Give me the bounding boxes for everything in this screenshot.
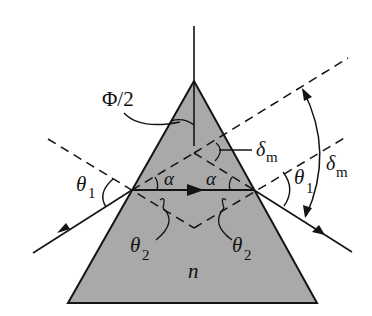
alpha-left-label: α	[164, 168, 175, 189]
theta2-left-subscript: 2	[142, 247, 150, 263]
prism-diagram: Φ/2 δ m δ m θ 1 θ 1 α α θ 2 θ 2 n	[0, 0, 372, 316]
delta-outer-arc	[303, 90, 320, 216]
theta1-right-arc	[283, 172, 290, 206]
theta1-left-label: θ	[76, 172, 86, 196]
theta2-right-label: θ	[232, 233, 242, 257]
theta1-right-subscript: 1	[306, 180, 314, 196]
theta2-right-subscript: 2	[244, 247, 252, 263]
refractive-index-label: n	[188, 259, 199, 283]
delta-outer-arrow-bottom-icon	[303, 205, 312, 218]
theta1-left-subscript: 1	[88, 185, 96, 201]
delta-outer-arrow-top-icon	[302, 88, 312, 101]
theta1-right-label: θ	[294, 165, 304, 189]
delta-inner-label: δ	[256, 138, 266, 160]
alpha-right-label: α	[206, 168, 217, 189]
prism-diagram-svg: Φ/2 δ m δ m θ 1 θ 1 α α θ 2 θ 2 n	[0, 0, 372, 316]
theta2-left-label: θ	[130, 233, 140, 257]
emergent-ray-arrow-icon	[312, 225, 325, 235]
delta-inner-subscript: m	[266, 149, 278, 165]
delta-outer-label: δ	[326, 152, 336, 174]
apex-half-angle-label: Φ/2	[102, 87, 134, 111]
delta-outer-subscript: m	[336, 164, 348, 180]
